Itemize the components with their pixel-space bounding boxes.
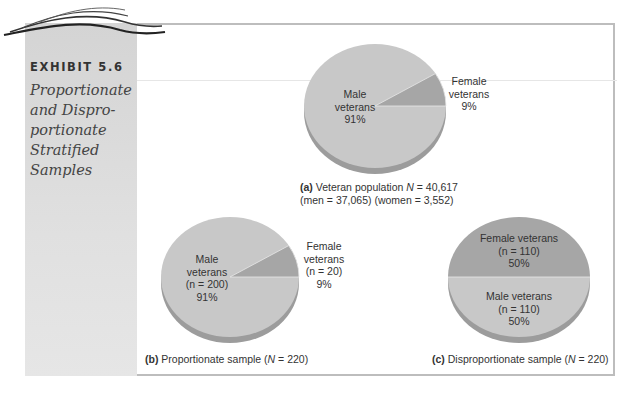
pie-a-male-label: Male veterans 91% — [325, 88, 385, 126]
pie-a-caption: (a) Veteran population N = 40,617 (men =… — [300, 181, 450, 207]
pie-b-male-label: Male veterans (n = 200) 91% — [182, 253, 232, 303]
pie-c-female-label: Female veterans (n = 110) 50% — [469, 232, 569, 270]
pie-a-female-label: Female veterans 9% — [443, 75, 495, 113]
pie-b-female-label: Female veterans (n = 20) 9% — [298, 240, 350, 290]
pie-c-caption: (c) Disproportionate sample (N = 220) — [432, 353, 612, 366]
pie-c-male-label: Male veterans (n = 110) 50% — [469, 290, 569, 328]
pie-b-caption: (b) Proportionate sample (N = 220) — [145, 353, 325, 366]
